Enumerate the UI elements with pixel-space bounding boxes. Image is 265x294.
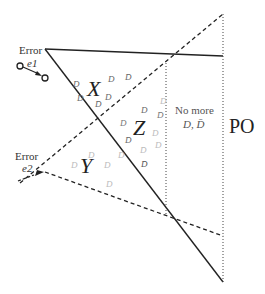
- token-dbar: D̄: [125, 72, 132, 82]
- token-d: D: [106, 179, 113, 189]
- token-d: D: [88, 150, 95, 160]
- token-dbar: D̄: [141, 159, 148, 169]
- error-e2-sub: e2: [22, 162, 32, 174]
- token-d: D: [108, 74, 115, 84]
- error-e1-sub: e1: [27, 57, 37, 69]
- token-d: D: [77, 93, 84, 103]
- token-dbar: D̄: [140, 145, 147, 155]
- region-z-label: Z: [133, 115, 145, 141]
- token-d: D: [118, 150, 125, 160]
- no-more-label-line1: No more: [175, 104, 214, 116]
- error-e2-title: Error: [15, 150, 38, 162]
- token-d: D: [141, 105, 148, 115]
- token-dbar: D̄: [125, 135, 132, 145]
- token-d: D: [160, 96, 167, 106]
- token-d: D: [155, 140, 162, 150]
- token-d: D: [152, 128, 159, 138]
- region-po-label: PO: [229, 115, 255, 138]
- no-more-label-line2: D, D̄: [183, 118, 204, 130]
- token-dbar: D̄: [157, 110, 164, 120]
- token-d: D: [105, 92, 112, 102]
- token-d: D: [71, 160, 78, 170]
- token-dbar: D̄: [95, 99, 102, 109]
- error-e1-title: Error: [19, 44, 42, 56]
- token-d: D: [120, 118, 127, 128]
- token-d: D: [104, 160, 111, 170]
- token-d: D: [73, 79, 80, 89]
